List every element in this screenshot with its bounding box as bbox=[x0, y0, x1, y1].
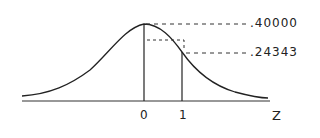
tick-label-0: 0 bbox=[140, 108, 149, 122]
dash-rect bbox=[147, 40, 184, 50]
value-peak-label: .40000 bbox=[250, 16, 298, 30]
tick-label-1: 1 bbox=[179, 108, 188, 122]
axis-label-z: Z bbox=[272, 108, 282, 123]
value-z1-label: .24343 bbox=[250, 45, 298, 59]
bell-curve bbox=[22, 24, 268, 98]
